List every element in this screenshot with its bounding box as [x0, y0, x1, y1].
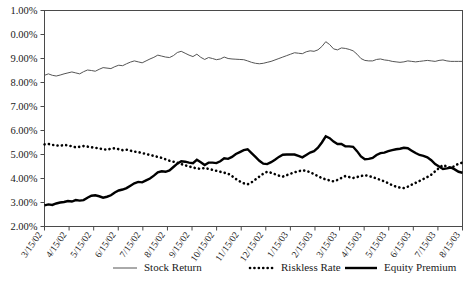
legend-label-1: Stock Return — [144, 261, 202, 273]
y-axis-label: 3.00% — [10, 197, 37, 208]
x-axis-label: 6/15/03 — [388, 230, 413, 260]
series-riskless-rate — [45, 144, 463, 188]
x-axis-label: 8/15/03 — [437, 230, 462, 260]
y-axis-label: 4.00% — [10, 173, 37, 184]
legend-label-2: Riskless Rate — [281, 261, 341, 273]
x-axis-label: 3/15/03 — [314, 230, 339, 260]
x-axis-label: 3/15/02 — [19, 230, 44, 260]
y-axis-label: 7.00% — [10, 101, 37, 112]
x-axis-label: 4/15/02 — [44, 230, 69, 260]
line-chart: 1.00%0.00%9.00%8.00%7.00%6.00%5.00%4.00%… — [0, 0, 476, 283]
x-axis-label: 2/15/03 — [290, 230, 315, 260]
chart-container: 1.00%0.00%9.00%8.00%7.00%6.00%5.00%4.00%… — [0, 0, 476, 283]
x-axis-label: 8/15/02 — [142, 230, 167, 260]
y-axis-label: 1.00% — [10, 5, 37, 16]
x-axis-label: 1/15/03 — [265, 230, 290, 260]
x-axis-label: 6/15/02 — [93, 230, 118, 260]
x-axis-label: 5/15/02 — [68, 230, 93, 260]
x-axis-label: 9/15/02 — [167, 230, 192, 260]
y-axis-label: 5.00% — [10, 149, 37, 160]
y-axis-label: 6.00% — [10, 125, 37, 136]
series-stock-return — [45, 42, 463, 76]
y-axis-label: 0.00% — [10, 29, 37, 40]
x-axis-label: 4/15/03 — [339, 230, 364, 260]
series-equity-premium — [45, 136, 463, 205]
plot-frame — [45, 11, 463, 227]
y-axis-label: 9.00% — [10, 53, 37, 64]
x-axis: 3/15/024/15/025/15/026/15/027/15/028/15/… — [19, 227, 462, 264]
y-axis-label: 8.00% — [10, 77, 37, 88]
x-axis-label: 7/15/02 — [118, 230, 143, 260]
y-axis: 1.00%0.00%9.00%8.00%7.00%6.00%5.00%4.00%… — [10, 5, 44, 232]
legend-label-3: Equity Premium — [384, 261, 457, 273]
x-axis-label: 7/15/03 — [413, 230, 438, 260]
x-axis-label: 10/15/02 — [189, 230, 217, 264]
chart-legend: Stock ReturnRiskless RateEquity Premium — [113, 261, 457, 273]
x-axis-label: 12/15/02 — [238, 230, 266, 264]
x-axis-label: 5/15/03 — [364, 230, 389, 260]
y-axis-label: 2.00% — [10, 221, 37, 232]
